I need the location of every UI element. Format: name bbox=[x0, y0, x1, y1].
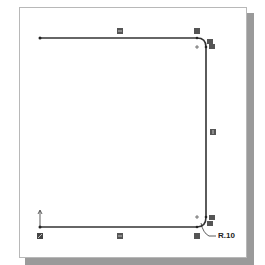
tangent-relation-icon[interactable] bbox=[194, 28, 200, 34]
vertical-relation-icon[interactable] bbox=[210, 129, 216, 135]
tangent-relation-icon[interactable] bbox=[194, 233, 200, 239]
tangent-relation-icon[interactable] bbox=[207, 39, 215, 49]
sketch-canvas bbox=[0, 0, 265, 265]
point[interactable] bbox=[196, 37, 199, 40]
origin-axis-icon bbox=[38, 210, 42, 227]
top-right-fillet-arc[interactable] bbox=[197, 38, 206, 47]
point[interactable] bbox=[205, 216, 208, 219]
arc-center-icon bbox=[195, 45, 199, 49]
arc-center-icon bbox=[195, 215, 199, 219]
start-point[interactable] bbox=[39, 37, 42, 40]
point[interactable] bbox=[196, 226, 199, 229]
point[interactable] bbox=[205, 46, 208, 49]
horizontal-relation-icon[interactable] bbox=[117, 28, 123, 34]
tangent-relation-icon[interactable] bbox=[207, 215, 215, 226]
radius-dimension[interactable]: R.10 bbox=[218, 231, 235, 240]
fixed-relation-icon[interactable] bbox=[37, 233, 43, 239]
horizontal-relation-icon[interactable] bbox=[117, 233, 123, 239]
